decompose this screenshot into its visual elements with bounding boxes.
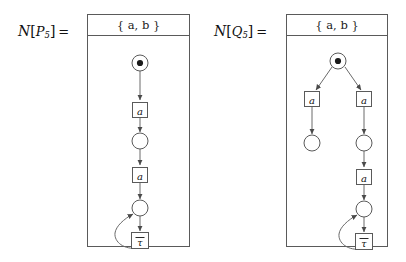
left-net-box: { a, b } xyxy=(87,14,190,247)
left-net-alphabet-header: { a, b } xyxy=(88,15,189,36)
transition-tr-label: a xyxy=(361,95,367,106)
transition-tr: a xyxy=(357,92,372,107)
close-bracket-right: ] xyxy=(248,23,253,39)
transition-t2-tau: τ xyxy=(132,233,149,249)
process-name-right: Q xyxy=(232,24,243,39)
left-petri-net-svg: a a τ xyxy=(88,36,191,247)
right-panel-equation-label: N[Q5]= xyxy=(214,23,267,40)
equals-sign-right: = xyxy=(256,24,267,39)
transition-tr3-tau: τ xyxy=(356,234,373,250)
calligraphic-n-right: N xyxy=(214,23,226,39)
transition-t1-label: a xyxy=(137,171,143,182)
close-bracket-left: ] xyxy=(50,23,55,39)
token-dot-p0-right xyxy=(335,58,341,64)
place-pr2 xyxy=(356,201,372,217)
petri-net-figure: N[P5]= { a, b } xyxy=(0,0,406,262)
left-panel-equation-label: N[P5]= xyxy=(18,23,69,40)
right-alphabet-text: { a, b } xyxy=(315,18,358,32)
left-net-canvas: a a τ xyxy=(88,36,189,246)
place-pr1 xyxy=(356,135,372,151)
transition-t0-label: a xyxy=(137,106,143,117)
token-dot-p0 xyxy=(137,60,143,66)
right-net-box: { a, b } xyxy=(286,14,388,247)
place-p0-marked xyxy=(132,55,148,71)
equals-sign-left: = xyxy=(58,24,69,39)
calligraphic-n-left: N xyxy=(18,23,30,39)
transition-tl-label: a xyxy=(309,95,315,106)
transition-t2-label: τ xyxy=(137,237,143,248)
transition-t0: a xyxy=(133,103,148,118)
left-alphabet-text: { a, b } xyxy=(117,18,160,32)
transition-tl: a xyxy=(305,92,320,107)
arc-p0-tl xyxy=(316,67,332,90)
right-net-canvas: a a a xyxy=(287,36,387,246)
place-p1 xyxy=(132,133,148,149)
arc-p0-tr xyxy=(345,67,361,90)
place-p2 xyxy=(132,200,148,216)
transition-tr3-label: τ xyxy=(361,238,367,249)
place-pl1 xyxy=(304,135,320,151)
transition-tr2: a xyxy=(357,170,372,185)
transition-tr2-label: a xyxy=(361,173,367,184)
right-net-alphabet-header: { a, b } xyxy=(287,15,387,36)
right-petri-net-svg: a a a xyxy=(287,36,389,247)
transition-t1: a xyxy=(133,168,148,183)
place-p0-marked-right xyxy=(330,53,346,69)
